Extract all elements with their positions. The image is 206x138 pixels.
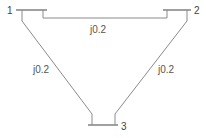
bus-2-label: 2 [194,5,200,16]
bus-2: 2 [163,5,200,16]
three-bus-diagram: 1 2 3 j0.2 j0.2 j0.2 [0,0,206,138]
line-2-3-impedance: j0.2 [157,64,175,75]
line-1-3-impedance: j0.2 [32,64,50,75]
line-2-3-path [115,10,187,125]
line-1-2-path [43,10,167,18]
bus-1: 1 [7,5,47,16]
bus-3-label: 3 [121,121,127,132]
line-1-3: j0.2 [22,10,92,125]
bus-1-label: 1 [7,5,13,16]
line-1-2: j0.2 [43,10,167,35]
line-2-3: j0.2 [115,10,187,125]
bus-3: 3 [88,121,127,132]
line-1-2-impedance: j0.2 [89,24,107,35]
